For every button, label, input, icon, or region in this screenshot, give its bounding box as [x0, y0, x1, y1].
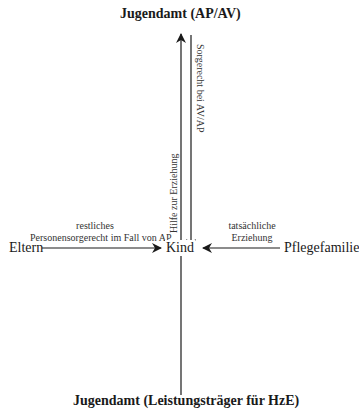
label-line-2: Personensorgerecht im Fall von AP: [30, 232, 160, 244]
label-line-2: Erziehung: [222, 232, 282, 244]
label-line-1: tatsächliche: [222, 220, 282, 232]
label-restliches-personensorgerecht: restliches Personensorgerecht im Fall vo…: [30, 220, 160, 244]
node-eltern: Eltern: [9, 240, 43, 256]
label-sorgerecht: Sorgerecht bei AV/AP: [195, 44, 206, 133]
label-line-1: restliches: [30, 220, 160, 232]
node-jugendamt-leistungstraeger: Jugendamt (Leistungsträger für HzE): [73, 393, 299, 409]
node-pflegefamilie: Pflegefamilie: [284, 240, 359, 256]
label-hilfe-zur-erziehung: Hilfe zur Erziehung: [168, 154, 179, 233]
node-jugendamt-ap-av: Jugendamt (AP/AV): [120, 6, 241, 22]
label-tatsaechliche-erziehung: tatsächliche Erziehung: [222, 220, 282, 244]
node-kind: Kind: [165, 240, 195, 256]
